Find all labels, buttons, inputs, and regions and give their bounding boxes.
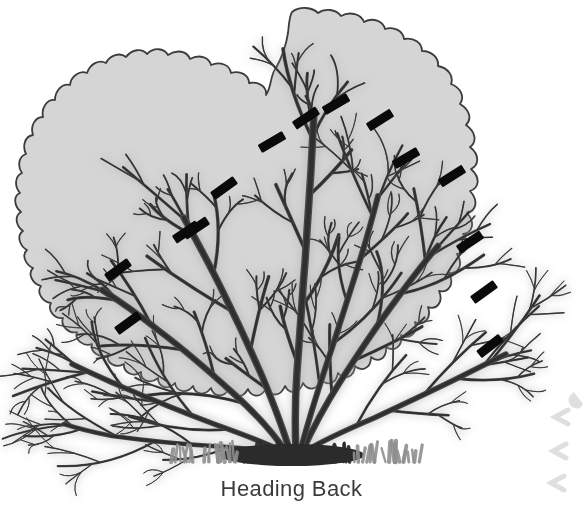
branch-stroke xyxy=(344,443,346,462)
branch-stroke xyxy=(267,449,269,462)
branch-stroke xyxy=(236,452,238,462)
branch-stroke xyxy=(414,451,415,462)
branch-stroke xyxy=(294,445,295,462)
branch-stroke xyxy=(317,446,318,462)
branch-stroke xyxy=(277,443,278,463)
branch-stroke xyxy=(349,447,350,462)
branch-stroke xyxy=(397,451,400,462)
branch-stroke xyxy=(395,445,396,463)
figure-caption: Heading Back xyxy=(0,476,583,502)
branch-stroke xyxy=(358,446,359,462)
branch-stroke xyxy=(408,452,409,462)
branch-stroke xyxy=(232,441,234,462)
branch-stroke xyxy=(180,446,181,462)
pruning-illustration-figure: Heading Back xyxy=(0,0,583,505)
branch-stroke xyxy=(389,442,390,462)
branch-stroke xyxy=(303,449,304,462)
shrub-diagram-svg xyxy=(0,0,583,505)
branch-stroke xyxy=(312,448,314,462)
branch-stroke xyxy=(287,443,288,462)
branch-stroke xyxy=(204,448,205,462)
branch-stroke xyxy=(171,449,173,462)
branch-stroke xyxy=(208,453,209,462)
branch-stroke xyxy=(300,446,302,462)
